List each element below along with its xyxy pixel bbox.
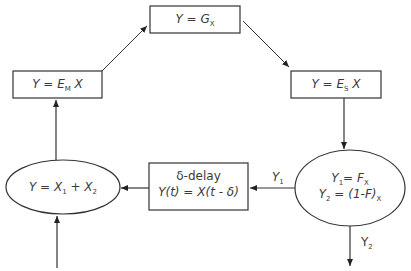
split-ellipse-line2: Y2 = (1-F)X <box>295 188 405 206</box>
delay-box-title: δ-delay <box>149 170 248 183</box>
delay-box-formula: Y(t) = X(t - δ) <box>149 186 248 199</box>
edge-label-y1: Y1 <box>272 171 284 189</box>
edge-label-y2: Y2 <box>361 236 373 254</box>
diagram-canvas <box>0 0 411 271</box>
left-box-label: Y = EM X <box>13 78 102 96</box>
edge-left-to-top <box>102 26 147 71</box>
sum-ellipse-label: Y = X1 + X2 <box>6 181 120 199</box>
right-box-label: Y = ES X <box>291 78 381 96</box>
top-box-label: Y = GX <box>150 13 240 31</box>
edge-top-to-right <box>243 21 289 67</box>
